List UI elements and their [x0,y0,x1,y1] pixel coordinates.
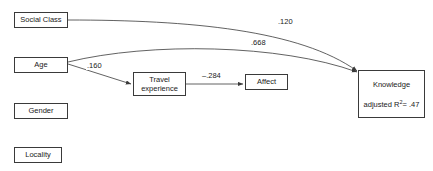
node-age-label: Age [34,60,47,69]
connector-age-to-knowledge [68,49,357,72]
node-gender[interactable]: Gender [14,103,68,119]
node-social-class-label: Social Class [20,15,61,24]
node-knowledge-r2: adjusted R2= .47 [359,100,424,109]
path-label-age-to-knowledge: .668 [250,38,267,47]
node-travel-experience[interactable]: Travel experience [133,72,186,96]
node-knowledge-label: Knowledge [373,80,410,89]
node-travel-experience-label-line1: Travel [149,75,170,84]
node-travel-experience-label-line2: experience [141,84,178,93]
node-knowledge-r2-value: = .47 [403,100,420,109]
path-diagram-canvas: Social Class Age Gender Locality Travel … [0,0,433,171]
node-locality[interactable]: Locality [14,147,62,163]
path-label-age-to-travel-experience: .160 [86,61,103,70]
path-label-travel-experience-to-affect: –.284 [201,71,222,80]
node-affect-label: Affect [257,77,276,86]
node-knowledge[interactable]: Knowledge adjusted R2= .47 [358,70,425,118]
node-social-class[interactable]: Social Class [14,12,68,28]
node-locality-label: Locality [25,150,50,159]
connector-social-class-to-knowledge [68,20,357,71]
path-label-social-class-to-knowledge: .120 [277,17,294,26]
node-age[interactable]: Age [14,57,68,73]
node-knowledge-r2-prefix: adjusted R [364,100,400,109]
node-affect[interactable]: Affect [245,74,288,90]
node-gender-label: Gender [28,106,53,115]
